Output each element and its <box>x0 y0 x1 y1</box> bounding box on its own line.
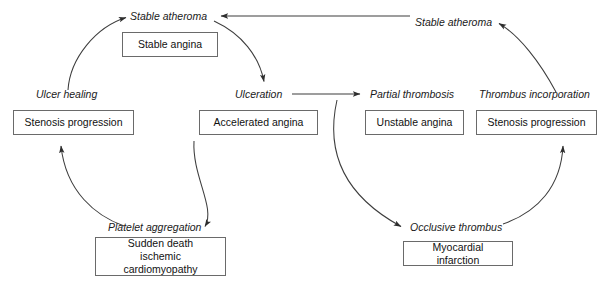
state-label-partial-thrombosis: Partial thrombosis <box>370 88 454 100</box>
outcome-label: Stable angina <box>131 38 209 51</box>
outcome-label: Stenosis progression <box>17 116 129 129</box>
outcome-label: Accelerated angina <box>207 116 311 129</box>
outcome-box-stable-angina: Stable angina <box>122 32 218 57</box>
state-label-stable-atheroma-right: Stable atheroma <box>415 16 492 28</box>
arrow-ulcer-healing-to-stable-atheroma <box>68 18 126 91</box>
flow-diagram: Stable atheroma Stable atheroma Ulcer he… <box>0 0 603 290</box>
outcome-label: Unstable angina <box>370 116 460 129</box>
outcome-box-myocardial-infarction: Myocardial infarction <box>403 241 513 266</box>
state-label-stable-atheroma-left: Stable atheroma <box>130 10 207 22</box>
outcome-box-unstable-angina: Unstable angina <box>365 110 464 135</box>
outcome-label: Stenosis progression <box>480 116 592 129</box>
outcome-box-sudden-death: Sudden death ischemic cardiomyopathy <box>95 237 226 276</box>
arrow-thrombus-incorporation-to-stable-atheroma-right <box>499 24 556 93</box>
state-label-occlusive-thrombus: Occlusive thrombus <box>410 221 502 233</box>
arrow-stable-atheroma-to-ulceration <box>214 21 264 82</box>
state-label-platelet-aggregation: Platelet aggregation <box>108 221 201 233</box>
outcome-box-accelerated-angina: Accelerated angina <box>199 110 318 135</box>
outcome-label: Myocardial infarction <box>404 241 512 267</box>
state-label-thrombus-incorporation: Thrombus incorporation <box>479 88 590 100</box>
arrow-platelet-aggregation-to-stenosis-progression-left <box>61 146 124 226</box>
arrow-occlusive-thrombus-to-stenosis-progression-right <box>503 146 563 224</box>
outcome-box-stenosis-progression-left: Stenosis progression <box>13 110 134 135</box>
arrow-ulceration-to-platelet-aggregation <box>194 141 208 227</box>
state-label-ulcer-healing: Ulcer healing <box>36 88 97 100</box>
outcome-box-stenosis-progression-right: Stenosis progression <box>476 110 597 135</box>
outcome-label: Sudden death ischemic cardiomyopathy <box>96 237 225 276</box>
state-label-ulceration: Ulceration <box>235 88 282 100</box>
